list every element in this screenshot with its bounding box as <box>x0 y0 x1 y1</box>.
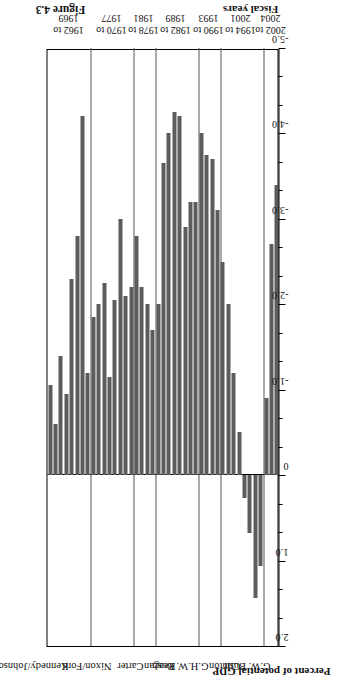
bar <box>242 475 246 498</box>
group-separator-line <box>198 48 199 646</box>
axis-tick-minor <box>278 276 282 277</box>
bar <box>85 373 89 476</box>
bar <box>253 475 257 598</box>
group-separator-line <box>220 48 221 646</box>
rotated-chart-canvas: 2.01.00-1.0-2.0-3.0-4.0-5.0 Kennedy/John… <box>0 0 341 696</box>
bar <box>53 424 57 475</box>
plot-area <box>46 49 278 647</box>
axis-tick-minor <box>278 105 282 106</box>
axis-tick-major <box>278 219 285 220</box>
axis-tick-major <box>278 48 285 49</box>
group-separator-line <box>133 48 134 646</box>
group-years-line1: 1990 to <box>193 25 223 36</box>
bar <box>231 373 235 476</box>
group-separator-line <box>90 48 91 646</box>
axis-tick-minor <box>278 247 282 248</box>
category-axis-title: Fiscal years <box>222 4 277 16</box>
axis-tick-label: -3.0 <box>271 205 288 216</box>
figure-container: 2.01.00-1.0-2.0-3.0-4.0-5.0 Kennedy/John… <box>0 0 341 696</box>
axis-tick-major <box>278 646 285 647</box>
group-years-line2: 1989 <box>165 13 185 24</box>
bar <box>150 330 154 475</box>
bar <box>69 279 73 475</box>
bar <box>129 287 133 475</box>
group-label-years: 1970 to1977 <box>96 12 126 36</box>
bar <box>145 304 149 475</box>
axis-tick-minor <box>278 447 282 448</box>
group-label-years: 1990 to1993 <box>193 12 223 36</box>
bar <box>215 210 219 475</box>
figure-caption: Figure 4.3 <box>35 4 85 16</box>
bar <box>58 356 62 476</box>
bar <box>161 163 165 475</box>
bar <box>112 300 116 475</box>
bar <box>80 116 84 475</box>
bar <box>118 219 122 475</box>
axis-tick-major <box>278 304 285 305</box>
axis-tick-major <box>278 475 285 476</box>
axis-tick-label: -4.0 <box>271 119 288 130</box>
axis-tick-minor <box>278 190 282 191</box>
group-years-line1: 1970 to <box>96 25 126 36</box>
bar <box>64 394 68 475</box>
bar <box>177 116 181 475</box>
axis-tick-minor <box>278 589 282 590</box>
bar <box>75 236 79 475</box>
bar <box>183 227 187 475</box>
bar <box>269 245 273 476</box>
bar <box>96 304 100 475</box>
axis-tick-major <box>278 390 285 391</box>
group-separator-line <box>263 48 264 646</box>
axis-tick-major <box>278 561 285 562</box>
axis-tick-minor <box>278 76 282 77</box>
group-years-line2: 1993 <box>198 13 218 24</box>
axis-tick-major <box>278 133 285 134</box>
bar <box>247 475 251 533</box>
axis-tick-minor <box>278 618 282 619</box>
bar <box>123 296 127 475</box>
bar <box>210 159 214 475</box>
axis-tick-minor <box>278 504 282 505</box>
axis-tick-label: -1.0 <box>271 376 288 387</box>
axis-tick-label: -2.0 <box>271 290 288 301</box>
group-years-line1: 1982 to <box>160 25 190 36</box>
bar <box>166 133 170 475</box>
value-axis-title: Percent of potential GDP <box>212 666 330 678</box>
axis-tick-minor <box>278 162 282 163</box>
bar <box>226 304 230 475</box>
axis-tick-label: 0 <box>283 461 288 472</box>
group-separator-line <box>155 48 156 646</box>
group-years-line1: 1962 to <box>52 25 82 36</box>
group-years-line1: 2002 to <box>255 25 285 36</box>
group-years-line1: 1978 to <box>128 25 158 36</box>
axis-tick-minor <box>278 333 282 334</box>
axis-tick-label: 1.0 <box>275 547 288 558</box>
bar <box>237 432 241 475</box>
bar <box>188 202 192 475</box>
bar <box>107 377 111 475</box>
group-years-line2: 1981 <box>133 13 153 24</box>
bar <box>193 202 197 475</box>
group-years-line2: 1977 <box>101 13 121 24</box>
bar <box>102 283 106 475</box>
bar <box>139 287 143 475</box>
bar <box>48 385 52 475</box>
bar <box>172 112 176 475</box>
axis-tick-minor <box>278 361 282 362</box>
bar <box>258 475 262 566</box>
axis-tick-minor <box>278 532 282 533</box>
group-label-years: 1978 to1981 <box>128 12 158 36</box>
group-label-years: 1982 to1989 <box>160 12 190 36</box>
bar <box>204 155 208 475</box>
group-years-line1: 1994 to <box>225 25 255 36</box>
axis-tick-label: 2.0 <box>275 632 288 643</box>
axis-tick-minor <box>278 418 282 419</box>
